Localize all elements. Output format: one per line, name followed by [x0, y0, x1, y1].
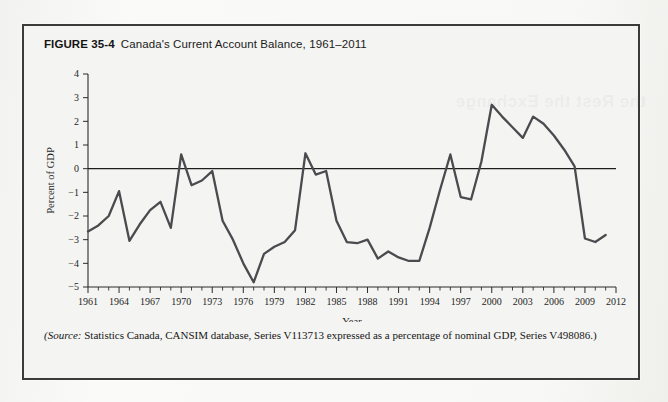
x-tick-label: 1967	[140, 296, 160, 307]
line-chart-svg: 43210−1−2−3−4−5 196119641967197019731976…	[38, 62, 628, 322]
x-tick-label: 2006	[544, 296, 564, 307]
source-note: (Source: Statistics Canada, CANSIM datab…	[44, 328, 622, 343]
x-tick-label: 1997	[451, 296, 471, 307]
figure-number: FIGURE 35-4	[44, 38, 115, 50]
x-tick-label: 2012	[606, 296, 626, 307]
x-tick-label: 1979	[264, 296, 284, 307]
y-tick-label: 0	[74, 163, 79, 174]
data-series-group	[88, 105, 606, 283]
x-tick-label: 1970	[171, 296, 191, 307]
x-tick-label: 1961	[78, 296, 98, 307]
data-line-series-0	[88, 105, 606, 283]
source-body: Statistics Canada, CANSIM database, Seri…	[81, 329, 596, 341]
figure-box: the Rest the Exchange FIGURE 35-4Canada'…	[22, 24, 640, 380]
y-tick-label: 3	[74, 92, 79, 103]
y-tick-label: −3	[68, 234, 79, 245]
y-tick-label: −4	[68, 258, 79, 269]
y-axis-group: 43210−1−2−3−4−5	[68, 68, 88, 292]
y-tick-label: −1	[68, 187, 79, 198]
x-tick-label: 1964	[109, 296, 129, 307]
y-tick-label: −2	[68, 210, 79, 221]
page-canvas: the Rest the Exchange FIGURE 35-4Canada'…	[0, 0, 668, 402]
x-tick-label: 2009	[575, 296, 595, 307]
x-axis-group: 1961196419671970197319761979198219851988…	[78, 287, 626, 307]
x-tick-label: 1982	[295, 296, 315, 307]
x-tick-label: 1973	[202, 296, 222, 307]
chart-plot-area: 43210−1−2−3−4−5 196119641967197019731976…	[38, 62, 628, 322]
x-tick-label: 1988	[358, 296, 378, 307]
figure-caption: Canada's Current Account Balance, 1961–2…	[121, 38, 367, 50]
x-tick-label: 2000	[482, 296, 502, 307]
figure-title: FIGURE 35-4Canada's Current Account Bala…	[44, 38, 367, 50]
y-tick-label: 4	[74, 68, 79, 79]
x-tick-label: 2003	[513, 296, 533, 307]
y-axis-title: Percent of GDP	[45, 147, 56, 214]
x-tick-label: 1994	[420, 296, 440, 307]
y-tick-label: −5	[68, 281, 79, 292]
x-tick-label: 1991	[389, 296, 409, 307]
y-tick-label: 2	[74, 116, 79, 127]
x-axis-title: Year	[342, 316, 362, 322]
y-tick-label: 1	[74, 139, 79, 150]
source-label: (Source:	[44, 329, 81, 341]
x-tick-label: 1976	[233, 296, 253, 307]
x-tick-label: 1985	[326, 296, 346, 307]
